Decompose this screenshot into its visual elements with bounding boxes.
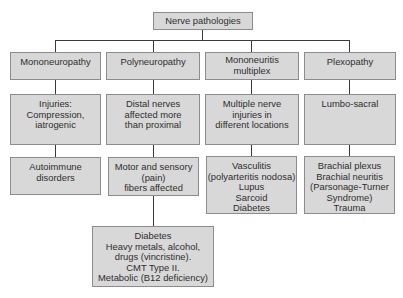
node-label: Mononeuropathy <box>11 57 100 68</box>
node-label: Distal nerves <box>107 99 199 110</box>
node-plexopathy: Plexopathy <box>304 52 396 80</box>
node-poly-distal: Distal nerves affected more than proxima… <box>106 94 200 145</box>
node-plexo-lumbosacral: Lumbo-sacral <box>304 94 396 145</box>
node-label: Metabolic (B12 deficiency) <box>93 273 213 284</box>
node-mm-multiple: Multiple nerve injuries in different loc… <box>205 94 299 145</box>
node-mononeuritis-multiplex: Mononeuritis multiplex <box>205 52 299 80</box>
node-label: Diabetes <box>93 231 213 242</box>
node-label: Brachial plexus <box>305 161 394 172</box>
node-label: iatrogenic <box>11 120 100 131</box>
node-label: Diabetes <box>207 203 296 214</box>
node-label: Injuries: <box>11 99 100 110</box>
connector-col4-l3 <box>349 144 350 156</box>
connector-col4-title <box>349 40 350 52</box>
node-label: Vasculitis <box>207 161 296 172</box>
node-poly-causes: Diabetes Heavy metals, alcohol, drugs (v… <box>92 226 214 287</box>
connector-col3-l2 <box>251 79 252 94</box>
node-plexo-brachial: Brachial plexus Brachial neuritis (Parso… <box>304 156 395 214</box>
node-label: Mononeuritis <box>206 55 298 66</box>
node-label: than proximal <box>107 120 199 131</box>
node-label: multiplex <box>206 66 298 77</box>
node-label: Polyneuropathy <box>107 57 199 68</box>
node-label: disorders <box>11 173 100 184</box>
connector-col4-l2 <box>349 79 350 94</box>
node-polyneuropathy: Polyneuropathy <box>106 52 200 80</box>
connector-col2-title <box>153 40 154 52</box>
connector-col2-l3 <box>153 144 154 157</box>
connector-col1-l2 <box>55 79 56 94</box>
node-mononeuropathy: Mononeuropathy <box>10 52 101 80</box>
node-label: Trauma <box>305 203 394 214</box>
connector-horizontal-bus <box>55 40 350 41</box>
node-label: Motor and sensory <box>109 162 198 173</box>
root-node: Nerve pathologies <box>153 12 253 30</box>
node-label: fibers affected <box>109 183 198 194</box>
connector-col1-title <box>55 40 56 52</box>
node-label: Autoimmune <box>11 162 100 173</box>
node-label: different locations <box>206 120 298 131</box>
connector-col3-l3 <box>251 144 252 156</box>
node-label: Multiple nerve <box>206 99 298 110</box>
connector-col2-l2 <box>153 79 154 94</box>
connector-col3-title <box>251 40 252 52</box>
connector-root-down <box>202 29 203 40</box>
node-label: Lumbo-sacral <box>305 99 395 110</box>
node-mm-vasculitis: Vasculitis (polyarteritis nodosa) Lupus … <box>206 156 297 214</box>
connector-col1-l3 <box>55 144 56 157</box>
node-poly-motor-sensory: Motor and sensory (pain) fibers affected <box>108 157 199 196</box>
node-label: Plexopathy <box>305 57 395 68</box>
node-mono-autoimmune: Autoimmune disorders <box>10 157 101 195</box>
root-label: Nerve pathologies <box>154 16 252 27</box>
connector-col2-l4 <box>153 195 154 226</box>
node-mono-injuries: Injuries: Compression, iatrogenic <box>10 94 101 145</box>
